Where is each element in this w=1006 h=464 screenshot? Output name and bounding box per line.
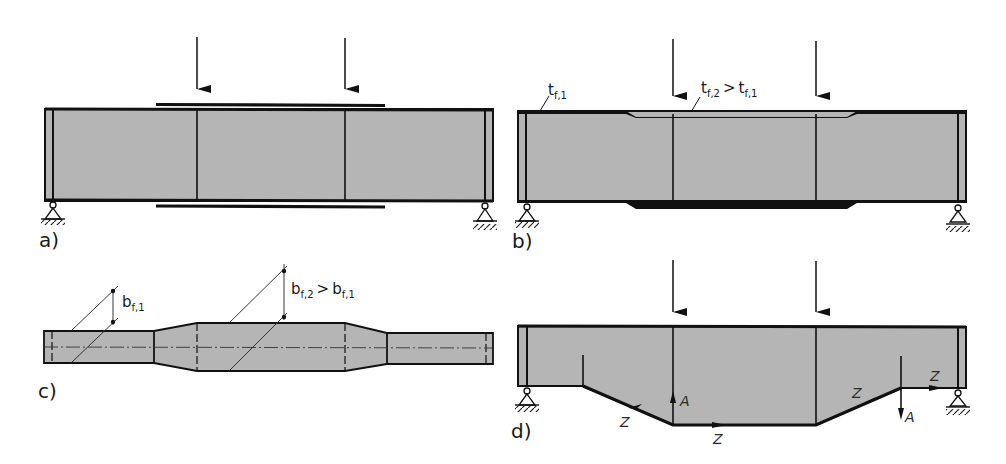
panel-label-b: b): [512, 229, 533, 253]
force-label-z-bottom: Z: [712, 431, 723, 447]
support-left: [41, 202, 65, 225]
beam-web: [518, 111, 966, 202]
support-right: [946, 390, 970, 415]
bottom-flange: [45, 200, 493, 201]
panel-label-a: a): [39, 228, 59, 252]
cover-plate-top: [156, 105, 385, 106]
force-label-z-left: Z: [619, 414, 630, 430]
support-right: [946, 205, 970, 232]
panel-c: bf,1 bf,2>bf,1 c): [38, 264, 493, 403]
dim-leader-bf2-a: [229, 266, 287, 323]
panel-label-d: d): [511, 419, 532, 443]
label-bf1: bf,1: [122, 293, 145, 313]
support-left: [515, 204, 539, 228]
beam-web: [45, 109, 493, 201]
force-label-z-right: Z: [929, 368, 940, 384]
label-tf1: tf,1: [548, 81, 567, 101]
support-left: [515, 388, 539, 412]
cover-plate-bottom: [156, 206, 385, 207]
panel-b: tf,1 tf,2>tf,1 b): [512, 39, 970, 253]
leader-tf2: [691, 97, 700, 112]
top-flange: [45, 109, 493, 110]
top-flange: [518, 326, 966, 327]
diagram-canvas: a) tf,1 tf,2>tf,1 b): [0, 0, 1006, 464]
panel-d: A Z Z Z A Z d): [511, 260, 970, 447]
thick-bottom-flange: [518, 200, 966, 209]
force-label-z-haunch-right: Z: [851, 385, 862, 401]
label-tf2-gt-tf1: tf,2>tf,1: [701, 79, 757, 99]
panel-label-c: c): [38, 379, 57, 403]
panel-a: a): [39, 37, 497, 252]
force-arrow-a-down: [898, 408, 904, 420]
force-label-a-right: A: [904, 409, 915, 425]
force-label-a-left: A: [679, 393, 690, 409]
label-bf2-gt-bf1: bf,2>bf,1: [291, 280, 355, 300]
support-right: [473, 203, 497, 230]
